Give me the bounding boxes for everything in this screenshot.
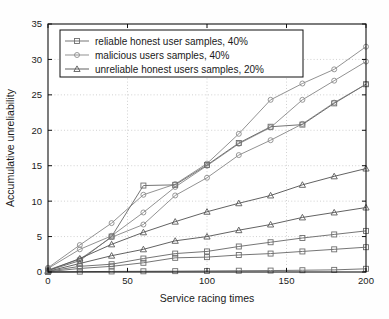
legend-label: unreliable honest users samples, 20%	[95, 64, 264, 75]
y-tick-label: 15	[31, 160, 42, 171]
chart-legend: reliable honest user samples, 40%malicio…	[60, 30, 303, 77]
y-axis-label: Accumulative unreliability	[4, 88, 16, 207]
y-tick-label: 0	[37, 266, 42, 277]
x-tick-label: 100	[199, 275, 215, 286]
y-tick-label: 30	[31, 54, 42, 65]
x-axis-label: Service racing times	[160, 292, 255, 304]
y-tick-label: 5	[37, 231, 42, 242]
x-tick-label: 0	[45, 275, 50, 286]
y-tick-label: 20	[31, 125, 42, 136]
legend-item: unreliable honest users samples, 20%	[65, 64, 264, 75]
chart-figure: 05101520253035050100150200Service racing…	[0, 0, 389, 319]
x-tick-label: 200	[358, 275, 374, 286]
legend-label: reliable honest user samples, 40%	[95, 36, 248, 47]
chart-canvas: 05101520253035050100150200Service racing…	[0, 0, 389, 319]
legend-label: malicious users samples, 40%	[95, 50, 230, 61]
y-tick-label: 35	[31, 18, 42, 29]
x-tick-label: 50	[122, 275, 133, 286]
y-tick-label: 10	[31, 196, 42, 207]
x-tick-label: 150	[279, 275, 295, 286]
y-tick-label: 25	[31, 89, 42, 100]
